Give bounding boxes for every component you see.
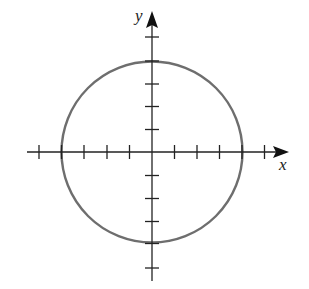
coordinate-diagram: x y bbox=[0, 0, 309, 289]
x-axis-label: x bbox=[278, 155, 287, 174]
y-axis-label: y bbox=[133, 6, 143, 25]
